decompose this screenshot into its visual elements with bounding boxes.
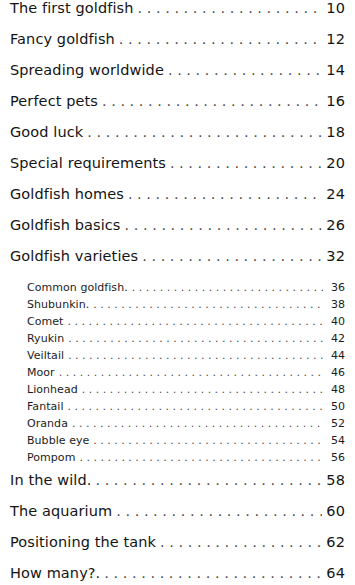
toc-page-number: 38 — [327, 298, 345, 311]
toc-page-number: 24 — [326, 186, 345, 202]
toc-page-number: 26 — [326, 217, 345, 233]
toc-leader-dots — [68, 332, 323, 345]
toc-leader-dots — [102, 93, 322, 109]
toc-entry-title: Goldfish basics — [10, 217, 121, 233]
toc-page-number: 36 — [327, 281, 345, 294]
toc-entry[interactable]: The aquarium60 — [0, 503, 355, 534]
toc-nested-group: Common goldfish.36Shubunkin.38Comet40Ryu… — [0, 281, 355, 468]
toc-entry-title: How many?. — [10, 565, 100, 581]
toc-leader-dots — [119, 31, 323, 47]
toc-entry[interactable]: In the wild.58 — [0, 472, 355, 503]
toc-entry-title: Special requirements — [10, 155, 166, 171]
toc-page-number: 32 — [326, 248, 345, 264]
toc-entry[interactable]: The first goldfish10 — [0, 0, 355, 31]
toc-leader-dots — [95, 472, 322, 488]
toc-subentry[interactable]: Comet40 — [0, 315, 355, 332]
toc-page-number: 58 — [326, 472, 345, 488]
toc-subentry[interactable]: Pompom56 — [0, 451, 355, 468]
toc-entry-title: Veiltail — [27, 349, 64, 362]
toc-entry-title: Goldfish homes — [10, 186, 124, 202]
toc-entry[interactable]: Goldfish basics26 — [0, 217, 355, 248]
toc-page-number: 18 — [326, 124, 345, 140]
toc-leader-dots — [116, 503, 322, 519]
toc-page-number: 46 — [327, 366, 345, 379]
toc-entry-title: Ryukin — [27, 332, 64, 345]
toc-entry-title: Positioning the tank — [10, 534, 156, 550]
toc-leader-dots — [79, 451, 323, 464]
toc-leader-dots — [72, 417, 323, 430]
toc-subentry[interactable]: Fantail50 — [0, 400, 355, 417]
toc-entry-title: Spreading worldwide — [10, 62, 164, 78]
toc-page-number: 60 — [326, 503, 345, 519]
toc-leader-dots — [132, 281, 323, 294]
toc-subentry[interactable]: Ryukin42 — [0, 332, 355, 349]
toc-page-number: 48 — [327, 383, 345, 396]
toc-entry-title: Pompom — [27, 451, 75, 464]
toc-subentry[interactable]: Veiltail44 — [0, 349, 355, 366]
toc-entry-title: Fantail — [27, 400, 64, 413]
toc-page-number: 54 — [327, 434, 345, 447]
toc-leader-dots — [125, 217, 323, 233]
toc-leader-dots — [59, 366, 323, 379]
toc-entry-title: Shubunkin. — [27, 298, 89, 311]
toc-subentry[interactable]: Moor46 — [0, 366, 355, 383]
toc-leader-dots — [93, 434, 323, 447]
toc-leader-dots — [170, 155, 322, 171]
toc-leader-dots — [142, 248, 322, 264]
toc-page-number: 52 — [327, 417, 345, 430]
toc-entry[interactable]: How many?.64 — [0, 565, 355, 585]
toc-page-number: 56 — [327, 451, 345, 464]
toc-entry-title: Goldfish varieties — [10, 248, 138, 264]
toc-leader-dots — [68, 400, 323, 413]
toc-leader-dots — [168, 62, 322, 78]
toc-page-number: 16 — [326, 93, 345, 109]
toc-leader-dots — [93, 298, 323, 311]
toc-entry-title: Common goldfish. — [27, 281, 128, 294]
toc-page-number: 50 — [327, 400, 345, 413]
toc-entry-title: Good luck — [10, 124, 83, 140]
toc-page-number: 40 — [327, 315, 345, 328]
toc-entry[interactable]: Good luck18 — [0, 124, 355, 155]
toc-page-number: 10 — [326, 0, 345, 16]
toc-page-number: 14 — [326, 62, 345, 78]
toc-page-number: 42 — [327, 332, 345, 345]
toc-leader-dots — [128, 186, 322, 202]
toc-leader-dots — [160, 534, 322, 550]
toc-entry-title: Fancy goldfish — [10, 31, 115, 47]
toc-entry-title: In the wild. — [10, 472, 91, 488]
toc-leader-dots — [87, 124, 322, 140]
toc-entry[interactable]: Perfect pets16 — [0, 93, 355, 124]
toc-entry-title: Bubble eye — [27, 434, 89, 447]
toc-entry-title: The aquarium — [10, 503, 112, 519]
toc-subentry[interactable]: Shubunkin.38 — [0, 298, 355, 315]
toc-leader-dots — [104, 565, 322, 581]
toc-page-number: 20 — [326, 155, 345, 171]
toc-entry[interactable]: Special requirements20 — [0, 155, 355, 186]
toc-leader-dots — [82, 383, 323, 396]
toc-subentry[interactable]: Oranda52 — [0, 417, 355, 434]
toc-leader-dots — [138, 0, 323, 16]
toc-entry-title: Comet — [27, 315, 63, 328]
toc-entry-title: Perfect pets — [10, 93, 98, 109]
toc-page-number: 12 — [326, 31, 345, 47]
toc-entry[interactable]: Goldfish homes24 — [0, 186, 355, 217]
toc-entry[interactable]: Positioning the tank62 — [0, 534, 355, 565]
toc-entry[interactable]: Spreading worldwide14 — [0, 62, 355, 93]
toc-entry[interactable]: Goldfish varieties32 — [0, 248, 355, 279]
toc-leader-dots — [68, 349, 323, 362]
toc-entry-title: Lionhead — [27, 383, 78, 396]
toc-page-number: 64 — [326, 565, 345, 581]
toc-subentry[interactable]: Lionhead48 — [0, 383, 355, 400]
toc-page-number: 62 — [326, 534, 345, 550]
toc-entry-title: Oranda — [27, 417, 68, 430]
toc-subentry[interactable]: Bubble eye54 — [0, 434, 355, 451]
toc-entry-title: The first goldfish — [10, 0, 134, 16]
toc-subentry[interactable]: Common goldfish.36 — [0, 281, 355, 298]
toc-page-number: 44 — [327, 349, 345, 362]
toc-entry-title: Moor — [27, 366, 55, 379]
toc-entry[interactable]: Fancy goldfish12 — [0, 31, 355, 62]
toc-leader-dots — [67, 315, 323, 328]
